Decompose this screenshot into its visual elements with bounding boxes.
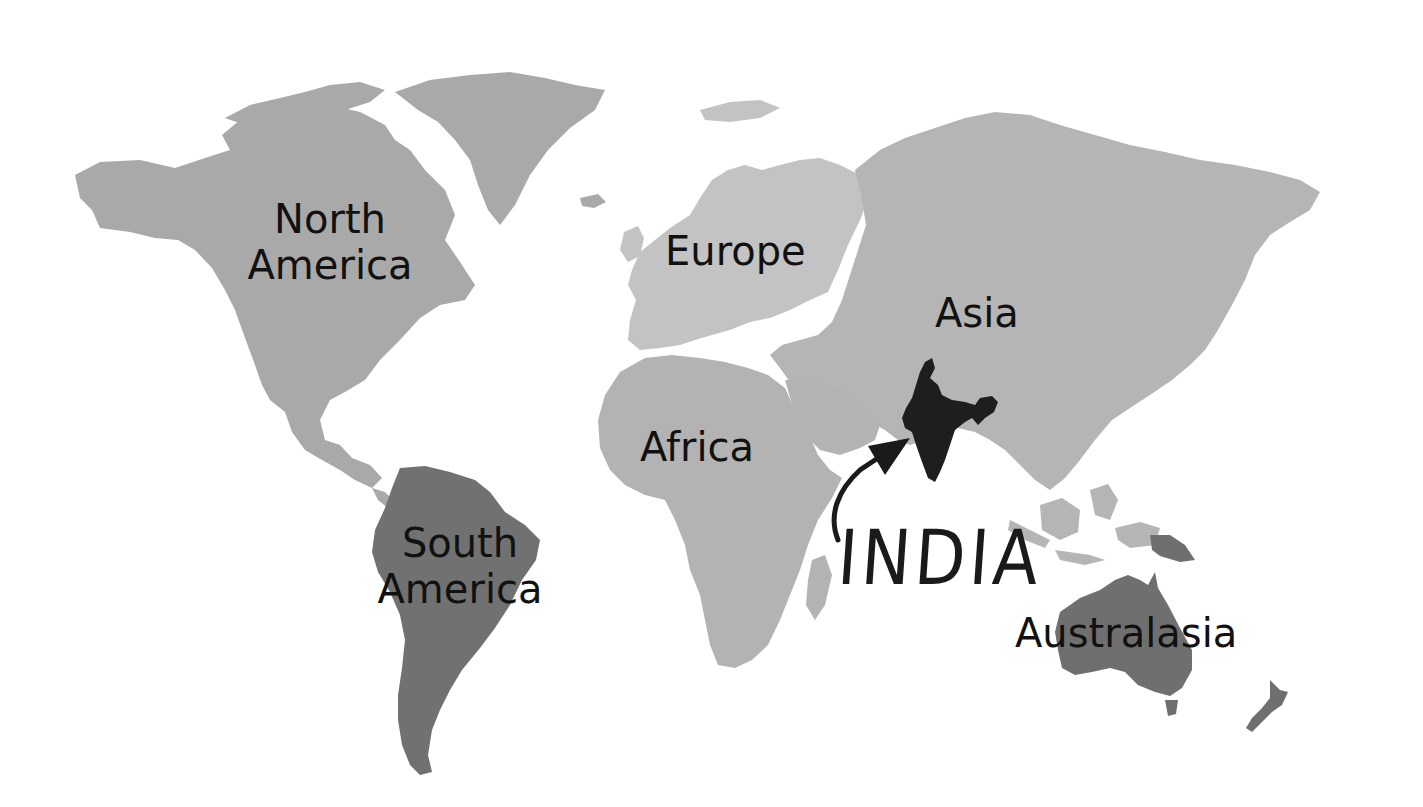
label-africa: Africa (640, 424, 754, 470)
label-north-america: North America (230, 196, 430, 288)
region-north-america (75, 72, 606, 508)
region-south-america (372, 466, 540, 775)
world-map (0, 0, 1423, 807)
region-europe (620, 100, 870, 350)
india-highlight-label: INDIA (835, 514, 1045, 603)
label-europe: Europe (665, 228, 806, 274)
label-asia: Asia (935, 290, 1019, 336)
region-africa (598, 355, 880, 668)
label-australasia: Australasia (1015, 610, 1237, 656)
label-south-america: South America (360, 520, 560, 612)
